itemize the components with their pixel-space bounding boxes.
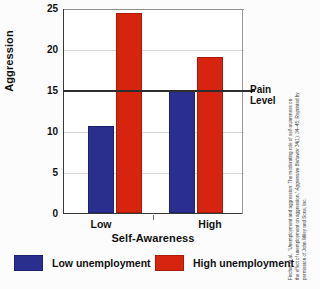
bar-low-self-awareness-high-unemployment xyxy=(116,13,142,213)
y-axis-title-container: Aggression xyxy=(4,64,18,196)
bar-low-self-awareness-low-unemployment xyxy=(88,126,114,213)
bar-high-self-awareness-high-unemployment xyxy=(197,57,223,213)
source-credit: Fischer et al., “Unemployment and aggres… xyxy=(287,8,308,280)
plot-area xyxy=(63,9,243,214)
x-axis-center-tick xyxy=(153,215,154,220)
y-axis-tick-labels: 25 20 15 10 5 0 xyxy=(30,0,63,223)
source-credit-journal: Aggressive Behavior xyxy=(295,148,300,190)
source-credit-line3: permission of John Wiley and Sons, Inc. xyxy=(302,198,307,280)
y-tick-label-0: 0 xyxy=(30,208,58,219)
source-credit-container: Fischer et al., “Unemployment and aggres… xyxy=(287,8,319,283)
bar-high-self-awareness-low-unemployment xyxy=(169,91,195,213)
source-credit-line2-suffix: 34(1): 34–45; Reprinted by xyxy=(295,92,300,148)
y-tick-label-20: 20 xyxy=(30,44,58,55)
y-axis-title: Aggression xyxy=(3,0,21,126)
source-credit-line1: Fischer et al., “Unemployment and aggres… xyxy=(288,99,293,280)
legend-swatch-high-unemployment xyxy=(155,255,184,271)
y-tick-label-25: 25 xyxy=(30,3,58,14)
plot-right-border xyxy=(242,9,243,214)
legend-swatch-low-unemployment xyxy=(14,255,43,271)
legend-label-low-unemployment: Low unemployment xyxy=(52,257,151,269)
source-credit-line2-prefix: the effect of unemployment on aggression… xyxy=(295,190,300,280)
x-tick-label-high: High xyxy=(180,218,240,230)
x-axis-title: Self-Awareness xyxy=(63,232,243,244)
y-tick-label-5: 5 xyxy=(30,167,58,178)
x-tick-label-low: Low xyxy=(71,218,131,230)
y-tick-label-15: 15 xyxy=(30,85,58,96)
figure-bar-chart: Aggression 25 20 15 10 5 0 Pain Level Lo… xyxy=(0,0,320,289)
legend-label-high-unemployment: High unemployment xyxy=(193,257,294,269)
gridline-20 xyxy=(64,50,244,51)
y-tick-label-10: 10 xyxy=(30,126,58,137)
pain-level-reference-line xyxy=(63,90,255,92)
legend: Low unemployment High unemployment xyxy=(0,253,290,277)
gridline-25 xyxy=(64,9,244,10)
